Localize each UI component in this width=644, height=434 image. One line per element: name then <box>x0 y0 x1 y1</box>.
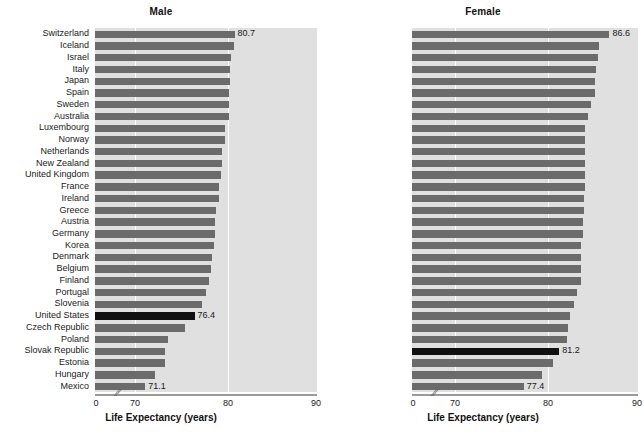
bar <box>412 101 591 108</box>
bar-row: 80.7 <box>95 28 317 40</box>
bar <box>412 277 581 284</box>
category-label: Portugal <box>55 287 89 298</box>
bar-value-label: 80.7 <box>238 28 256 39</box>
bar-row <box>95 145 317 157</box>
category-label: Luxembourg <box>39 122 89 133</box>
bar <box>412 31 609 38</box>
bar-row <box>412 275 638 287</box>
bar-row <box>412 286 638 298</box>
category-label: Japan <box>64 75 89 86</box>
bar <box>95 301 202 308</box>
x-axis-title-female: Life Expectancy (years) <box>322 412 644 423</box>
bar-row <box>95 263 317 275</box>
bar-row <box>95 357 317 369</box>
category-label: Israel <box>67 52 89 63</box>
bar <box>95 195 219 202</box>
bar-row <box>412 333 638 345</box>
bar-row <box>95 333 317 345</box>
bar-row <box>412 251 638 263</box>
bar-row <box>412 204 638 216</box>
bar-row <box>95 134 317 146</box>
panel-male: Male 80.776.471.1 SwitzerlandIcelandIsra… <box>0 0 322 434</box>
bar <box>412 136 585 143</box>
bar-rows-male: 80.776.471.1 <box>95 28 317 392</box>
plot-area-female: 86.681.277.4 <box>412 28 638 392</box>
bar-row: 81.2 <box>412 345 638 357</box>
bar <box>95 312 195 319</box>
x-tick-70-male: 70 <box>130 398 140 409</box>
category-label: Sweden <box>56 99 89 110</box>
bar-row <box>412 63 638 75</box>
bar <box>412 54 598 61</box>
life-expectancy-figure: Male 80.776.471.1 SwitzerlandIcelandIsra… <box>0 0 644 434</box>
bar-row <box>95 216 317 228</box>
bar <box>95 359 165 366</box>
bar <box>95 89 229 96</box>
bar-row <box>412 298 638 310</box>
bar-row <box>95 286 317 298</box>
bar-row: 76.4 <box>95 310 317 322</box>
bar <box>95 42 234 49</box>
category-label: Germany <box>52 228 89 239</box>
x-tick-90-female: 90 <box>632 398 642 409</box>
bar <box>412 183 585 190</box>
bar-row: 71.1 <box>95 380 317 392</box>
bar <box>412 348 559 355</box>
bar-value-label: 81.2 <box>562 345 580 356</box>
category-label: Belgium <box>56 263 89 274</box>
bar <box>95 265 211 272</box>
bar <box>412 324 568 331</box>
bar <box>412 265 581 272</box>
bar-row <box>412 87 638 99</box>
bar <box>412 230 583 237</box>
bar-row <box>95 181 317 193</box>
bar-row <box>95 192 317 204</box>
bar-row <box>412 192 638 204</box>
category-label: Netherlands <box>40 146 89 157</box>
bar <box>95 66 230 73</box>
bar-row <box>412 110 638 122</box>
bar-row <box>95 239 317 251</box>
category-label: Estonia <box>59 357 89 368</box>
category-label: Switzerland <box>42 28 89 39</box>
bar <box>95 218 215 225</box>
bar-row <box>412 75 638 87</box>
category-label: Ireland <box>61 193 89 204</box>
bar-row <box>412 239 638 251</box>
bar-row <box>412 51 638 63</box>
category-label: Poland <box>61 334 89 345</box>
category-label: Austria <box>61 216 89 227</box>
bar <box>412 66 596 73</box>
x-tick-70-female: 70 <box>450 398 460 409</box>
bar <box>95 277 209 284</box>
bar-row <box>412 322 638 334</box>
bar <box>412 301 574 308</box>
category-label: Korea <box>65 240 89 251</box>
bar-row <box>95 345 317 357</box>
bar <box>95 113 229 120</box>
x-axis-female <box>412 394 638 396</box>
plot-area-male: 80.776.471.1 <box>95 28 317 392</box>
bar <box>95 148 222 155</box>
category-label: Norway <box>58 134 89 145</box>
category-label: Mexico <box>60 381 89 392</box>
bar <box>412 125 585 132</box>
bar-row <box>95 75 317 87</box>
x-tick-90-male: 90 <box>311 398 321 409</box>
bar-row <box>95 228 317 240</box>
bar-row <box>95 157 317 169</box>
panel-title-male: Male <box>0 6 322 17</box>
bar-row <box>412 122 638 134</box>
bar-value-label: 77.4 <box>527 381 545 392</box>
bar-row <box>95 169 317 181</box>
bar <box>95 348 165 355</box>
bar-row <box>412 357 638 369</box>
category-label: Denmark <box>52 251 89 262</box>
bar <box>412 207 584 214</box>
bar <box>412 148 585 155</box>
bar <box>412 336 567 343</box>
bar <box>412 113 588 120</box>
bar-row <box>412 169 638 181</box>
bar <box>412 289 577 296</box>
bar-row <box>412 263 638 275</box>
